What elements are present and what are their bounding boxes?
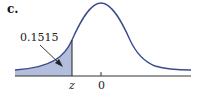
shaded-left-tail xyxy=(15,40,72,76)
normal-curve-figure: c. 0.1515 z 0 xyxy=(0,0,199,94)
area-value-label: 0.1515 xyxy=(20,31,59,44)
part-label: c. xyxy=(7,2,18,16)
z-axis-label: z xyxy=(68,79,75,92)
zero-axis-label: 0 xyxy=(98,79,105,92)
